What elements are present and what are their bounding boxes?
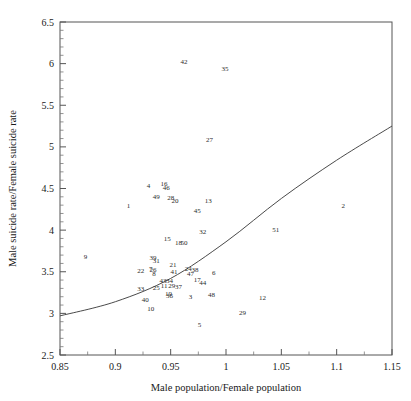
data-point-1: 1 xyxy=(127,202,131,210)
y-tick-label-3: 3 xyxy=(49,308,54,319)
data-point-6: 6 xyxy=(212,269,216,277)
data-point-27: 27 xyxy=(206,136,214,144)
x-tick-label-1.15: 1.15 xyxy=(383,361,401,372)
y-tick-label-4: 4 xyxy=(49,225,54,236)
data-point-42: 42 xyxy=(180,58,188,66)
x-tick-label-1.05: 1.05 xyxy=(273,361,291,372)
data-point-29: 29 xyxy=(239,309,247,317)
data-point-2: 2 xyxy=(342,202,346,210)
data-point-49: 49 xyxy=(153,193,161,201)
y-tick-label-4.5: 4.5 xyxy=(42,183,55,194)
data-point-37: 37 xyxy=(175,283,183,291)
x-axis-title: Male population/Female population xyxy=(151,382,302,393)
data-point-44: 44 xyxy=(199,279,207,287)
x-tick-label-0.95: 0.95 xyxy=(162,361,180,372)
data-point-50: 50 xyxy=(180,239,188,247)
data-point-5: 5 xyxy=(198,321,202,329)
data-point-46: 46 xyxy=(163,184,171,192)
data-point-40: 40 xyxy=(142,296,150,304)
fitted-curve xyxy=(60,126,392,316)
y-axis-title: Male suicide rate/Female suicide rate xyxy=(7,110,18,267)
data-point-8: 8 xyxy=(152,270,156,278)
data-point-45: 45 xyxy=(194,207,202,215)
x-tick-label-0.85: 0.85 xyxy=(51,361,69,372)
data-point-35: 35 xyxy=(221,65,229,73)
data-point-9: 9 xyxy=(84,253,88,261)
x-tick-label-1.1: 1.1 xyxy=(330,361,343,372)
data-point-13: 13 xyxy=(205,197,213,205)
data-point-12: 12 xyxy=(259,294,267,302)
y-tick-label-6: 6 xyxy=(49,58,54,69)
data-point-51: 51 xyxy=(272,226,280,234)
data-point-32: 32 xyxy=(199,228,207,236)
plot-canvas: 2.533.544.555.566.50.850.90.9511.051.11.… xyxy=(0,0,411,401)
data-point-22: 22 xyxy=(137,267,145,275)
x-tick-label-1: 1 xyxy=(224,361,229,372)
data-point-36: 36 xyxy=(166,292,174,300)
data-point-15: 15 xyxy=(164,235,172,243)
y-tick-label-6.5: 6.5 xyxy=(42,17,55,28)
data-point-31: 31 xyxy=(153,257,161,265)
data-point-4: 4 xyxy=(147,182,151,190)
y-tick-label-5: 5 xyxy=(49,141,54,152)
y-tick-label-2.5: 2.5 xyxy=(42,350,55,361)
data-point-3: 3 xyxy=(189,293,193,301)
data-point-25: 25 xyxy=(153,284,161,292)
y-tick-label-3.5: 3.5 xyxy=(42,266,55,277)
data-point-33: 33 xyxy=(137,285,145,293)
y-tick-label-5.5: 5.5 xyxy=(42,100,55,111)
data-point-10: 10 xyxy=(147,305,155,313)
scatter-chart: 2.533.544.555.566.50.850.90.9511.051.11.… xyxy=(0,0,411,401)
data-point-20: 20 xyxy=(172,197,180,205)
x-tick-label-0.9: 0.9 xyxy=(109,361,122,372)
data-point-41: 41 xyxy=(170,268,178,276)
data-point-48: 48 xyxy=(208,291,216,299)
